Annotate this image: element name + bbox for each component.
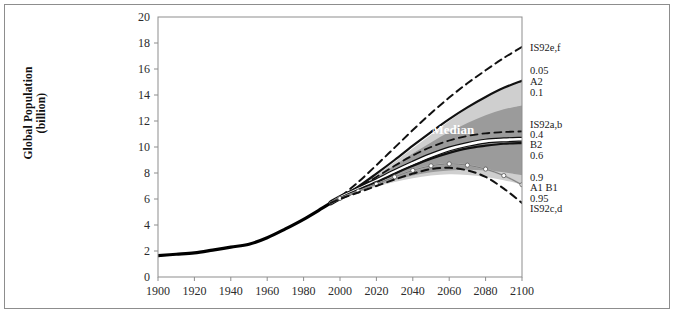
end-label-0-1: 0.1 [530,87,543,98]
annotation-median: Median [432,122,475,137]
y-tick-label: 18 [138,36,150,50]
figure-container: Global Population (billion) Median 02468… [0,0,674,318]
y-tick-label: 20 [138,10,150,24]
x-tick-label: 1940 [219,284,243,298]
end-label-a1-b1: A1 B1 [530,182,558,193]
data-point [465,163,469,167]
y-tick-label: 10 [138,140,150,154]
x-tick-label: 1900 [146,284,170,298]
y-tick-label: 0 [144,270,150,284]
data-point [447,162,451,166]
chart-svg: Median 02468101214161820 190019201940196… [0,0,674,318]
series-historical-population [158,203,331,256]
y-tick-label: 14 [138,88,150,102]
y-tick-label: 12 [138,114,150,128]
series-end-labels: IS92e,f0.05A20.1IS92a,b0.4B20.60.9A1 B10… [530,42,563,214]
y-axis-tick-labels: 02468101214161820 [138,10,150,284]
end-label-0-9: 0.9 [530,172,543,183]
data-point [484,167,488,171]
y-tick-label: 2 [144,244,150,258]
x-tick-label: 2060 [437,284,461,298]
x-tick-label: 1960 [255,284,279,298]
data-point [393,175,397,179]
x-tick-label: 2040 [401,284,425,298]
x-tick-label: 2020 [364,284,388,298]
y-tick-label: 16 [138,62,150,76]
end-label-is92c-d: IS92c,d [530,203,563,214]
y-tick-label: 4 [144,218,150,232]
end-label-b2: B2 [530,139,542,150]
x-tick-label: 1980 [292,284,316,298]
chart-plot-area: Median 02468101214161820 190019201940196… [0,0,674,318]
end-label-0-4: 0.4 [530,129,544,140]
end-label-0-6: 0.6 [530,150,543,161]
data-point [429,164,433,168]
chart-annotations: Median [432,122,475,137]
y-tick-label: 6 [144,192,150,206]
x-tick-label: 2100 [510,284,534,298]
end-label-0-05: 0.05 [530,65,548,76]
end-label-a2: A2 [530,76,543,87]
data-point [502,174,506,178]
end-label-is92a-b: IS92a,b [530,119,562,130]
y-tick-label: 8 [144,166,150,180]
data-point [411,168,415,172]
x-tick-label: 2080 [474,284,498,298]
x-tick-label: 1920 [182,284,206,298]
end-label-0-95: 0.95 [530,193,548,204]
x-axis-tick-labels: 1900192019401960198020002020204020602080… [146,284,534,298]
x-tick-label: 2000 [328,284,352,298]
end-label-is92e-f: IS92e,f [530,42,561,53]
